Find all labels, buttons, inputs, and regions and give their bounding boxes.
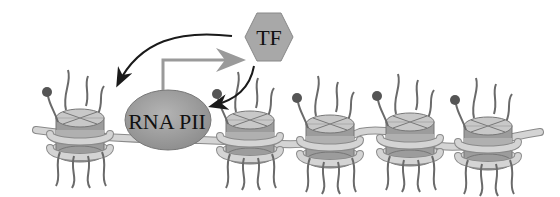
gray-elbow-arrow xyxy=(163,60,240,90)
tf-node: TF xyxy=(245,13,293,61)
chromatin-transcription-diagram: RNA PII TF xyxy=(0,0,560,197)
nucleosome-5 xyxy=(450,78,518,196)
tf-label: TF xyxy=(256,25,282,50)
rna-pii-label: RNA PII xyxy=(128,109,206,134)
rna-pii-node: RNA PII xyxy=(125,90,211,150)
nucleosome-2 xyxy=(212,72,280,190)
nucleosome-3 xyxy=(292,76,360,194)
